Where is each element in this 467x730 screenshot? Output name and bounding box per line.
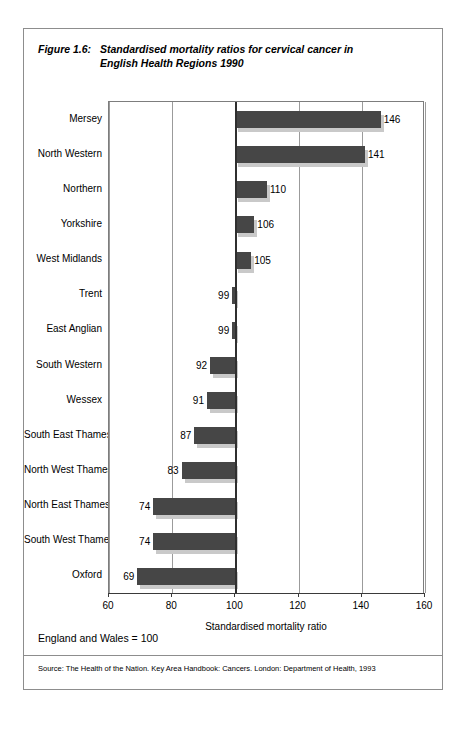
bar-value-label: 99: [218, 322, 229, 339]
y-axis-label-south-western: South Western: [24, 359, 102, 371]
y-axis-label-west-midlands: West Midlands: [24, 253, 102, 265]
x-ticklabel-120: 120: [289, 600, 306, 612]
reference-note: England and Wales = 100: [38, 632, 158, 644]
bar-value-label: 83: [168, 462, 179, 479]
y-axis-label-south-west-thames: South West Thames: [24, 534, 102, 546]
bar-row: 141: [109, 137, 423, 172]
x-ticklabel-60: 60: [102, 600, 113, 612]
bar-row: 105: [109, 243, 423, 278]
bar-row: 74: [109, 489, 423, 524]
x-ticklabel-160: 160: [416, 600, 433, 612]
y-axis-label-north-west-thames: North West Thames: [24, 464, 102, 476]
bar-value-label: 69: [123, 568, 134, 585]
gridline-160: [425, 102, 426, 593]
bar-value-label: 74: [139, 498, 150, 515]
bar-value-label: 87: [180, 427, 191, 444]
bar[interactable]: [182, 462, 236, 479]
y-axis-label-trent: Trent: [24, 288, 102, 300]
figure-number: Figure 1.6:: [38, 42, 100, 56]
bar-row: 87: [109, 418, 423, 453]
y-axis-label-oxford: Oxford: [24, 569, 102, 581]
bar-value-label: 91: [193, 392, 204, 409]
bar[interactable]: [207, 392, 235, 409]
bar[interactable]: [235, 252, 251, 269]
figure-title: Standardised mortality ratios for cervic…: [100, 42, 428, 70]
bar-value-label: 110: [270, 181, 286, 198]
bar-series: 146141110106105999992918783747469: [109, 102, 423, 593]
bar-row: 106: [109, 207, 423, 242]
x-ticklabel-140: 140: [352, 600, 369, 612]
y-axis-label-north-western: North Western: [24, 148, 102, 160]
bar[interactable]: [235, 216, 254, 233]
y-axis-label-east-anglian: East Anglian: [24, 323, 102, 335]
bar[interactable]: [235, 146, 365, 163]
bar-value-label: 146: [384, 111, 401, 128]
bar-row: 99: [109, 313, 423, 348]
bar[interactable]: [153, 533, 235, 550]
x-tick-160: [424, 593, 425, 597]
plot-area: 146141110106105999992918783747469: [108, 101, 424, 593]
y-axis-label-northern: Northern: [24, 183, 102, 195]
y-axis-label-north-east-thames: North East Thames: [24, 499, 102, 511]
figure-caption: Figure 1.6: Standardised mortality ratio…: [38, 42, 428, 70]
bar-value-label: 141: [368, 146, 385, 163]
bar-chart: MerseyNorth WesternNorthernYorkshireWest…: [24, 97, 442, 657]
bar-row: 92: [109, 348, 423, 383]
bar[interactable]: [137, 568, 235, 585]
bar[interactable]: [153, 498, 235, 515]
bar-value-label: 105: [254, 252, 271, 269]
figure-frame: Figure 1.6: Standardised mortality ratio…: [23, 28, 443, 690]
bar-value-label: 92: [196, 357, 207, 374]
bar-row: 110: [109, 172, 423, 207]
figure-title-line2: English Health Regions 1990: [100, 56, 428, 70]
x-axis-title: Standardised mortality ratio: [108, 621, 424, 632]
y-axis-category-labels: MerseyNorth WesternNorthernYorkshireWest…: [24, 101, 102, 593]
footer-divider: [24, 655, 442, 656]
bar[interactable]: [235, 181, 267, 198]
bar-value-label: 74: [139, 533, 150, 550]
baseline-gridline-100: [235, 102, 237, 593]
bar-row: 146: [109, 102, 423, 137]
bar-row: 74: [109, 524, 423, 559]
bar-value-label: 99: [218, 287, 229, 304]
source-note: Source: The Health of the Nation. Key Ar…: [38, 664, 376, 673]
bar-row: 99: [109, 278, 423, 313]
bar-value-label: 106: [257, 216, 274, 233]
bar[interactable]: [235, 111, 380, 128]
figure-title-line1: Standardised mortality ratios for cervic…: [100, 43, 353, 55]
bar-row: 69: [109, 559, 423, 594]
bar[interactable]: [210, 357, 235, 374]
y-axis-label-yorkshire: Yorkshire: [24, 218, 102, 230]
bar-row: 91: [109, 383, 423, 418]
x-ticklabel-80: 80: [166, 600, 177, 612]
y-axis-label-south-east-thames: South East Thames: [24, 429, 102, 441]
y-axis-label-mersey: Mersey: [24, 113, 102, 125]
bar-row: 83: [109, 453, 423, 488]
y-axis-label-wessex: Wessex: [24, 394, 102, 406]
bar[interactable]: [194, 427, 235, 444]
x-ticklabel-100: 100: [226, 600, 243, 612]
